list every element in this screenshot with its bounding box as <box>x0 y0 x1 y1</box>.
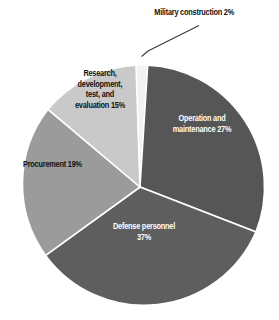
pie-chart-figure: Military construction 2% Operation and m… <box>0 0 279 320</box>
pie-chart-graphic <box>0 0 279 320</box>
military-construction-leader-line <box>142 26 200 57</box>
